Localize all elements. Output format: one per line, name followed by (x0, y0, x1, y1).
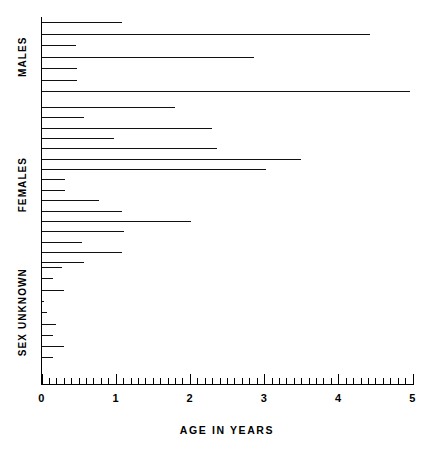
x-axis-title: AGE IN YEARS (180, 424, 274, 436)
x-tick-label: 4 (335, 392, 342, 404)
x-axis-ticks (43, 374, 414, 385)
bar-chart-figure: 012345 MALESFEMALESSEX UNKNOWN AGE IN YE… (0, 0, 440, 451)
group-label-males: MALES (17, 36, 28, 76)
x-tick-label: 5 (409, 392, 416, 404)
x-axis-tick-labels: 012345 (38, 392, 416, 404)
group-label-females: FEMALES (17, 157, 28, 212)
bar-group-females (42, 108, 302, 263)
bar-group-sex-unknown (42, 268, 64, 358)
bar-group-males (42, 23, 411, 92)
x-tick-label: 3 (261, 392, 268, 404)
chart-canvas: 012345 MALESFEMALESSEX UNKNOWN AGE IN YE… (0, 0, 440, 451)
x-tick-label: 0 (38, 392, 45, 404)
bars-layer (42, 23, 411, 358)
x-tick-label: 1 (112, 392, 119, 404)
y-axis-group-labels: MALESFEMALESSEX UNKNOWN (17, 36, 28, 356)
x-tick-label: 2 (187, 392, 194, 404)
group-label-sex-unknown: SEX UNKNOWN (17, 268, 28, 356)
